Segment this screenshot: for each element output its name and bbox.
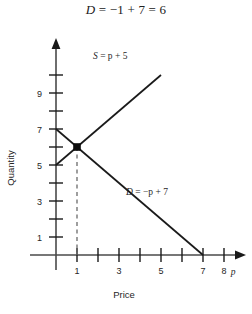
supply-curve-label: S = p + 5 — [93, 51, 128, 61]
equilibrium-point-marker — [73, 143, 81, 151]
supply-demand-chart: 1 3 5 7 9 1 3 5 7 8 S = p + 5 D = −p + 7… — [0, 30, 252, 314]
economics-supply-demand-figure: D = −1 + 7 = 6 1 3 5 7 9 — [0, 0, 252, 314]
supply-label-rest: = p + 5 — [98, 51, 128, 61]
y-tick-label-7: 7 — [37, 125, 42, 135]
demand-label-rest: = −p + 7 — [133, 187, 168, 197]
demand-curve-label: D = −p + 7 — [125, 187, 168, 197]
y-axis-title: Quantity — [5, 150, 16, 186]
title-equation-body: = −1 + 7 = 6 — [95, 2, 166, 17]
title-equation: D = −1 + 7 = 6 — [0, 2, 252, 18]
y-tick-label-3: 3 — [37, 197, 42, 207]
x-axis-variable-label: p — [230, 267, 236, 277]
x-tick-label-8: 8 — [221, 266, 226, 276]
y-tick-label-5: 5 — [37, 161, 42, 171]
x-axis-title: Price — [113, 289, 135, 300]
x-tick-label-5: 5 — [158, 266, 163, 276]
x-axis-arrowhead — [235, 251, 246, 260]
supply-curve-line — [56, 75, 161, 165]
demand-label-variable: D — [125, 187, 133, 197]
x-tick-label-3: 3 — [116, 266, 121, 276]
y-axis-arrowhead — [52, 38, 61, 49]
title-equation-variable: D — [86, 2, 96, 17]
y-tick-label-1: 1 — [37, 233, 42, 243]
y-tick-label-9: 9 — [37, 89, 42, 99]
x-tick-label-1: 1 — [74, 266, 79, 276]
x-tick-label-7: 7 — [200, 266, 205, 276]
